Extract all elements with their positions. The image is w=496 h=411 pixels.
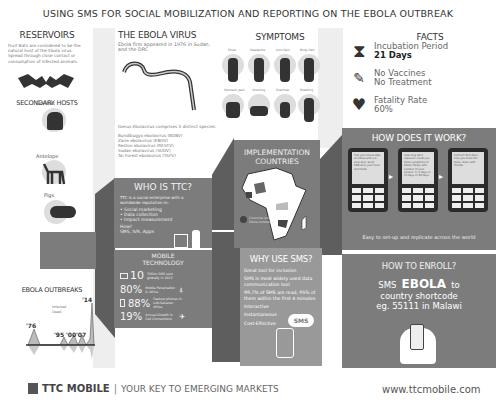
symptom-label: Body Pain — [300, 48, 315, 53]
why-item: Interactive — [244, 304, 322, 309]
connector-shape — [95, 178, 115, 338]
pig-icon — [44, 200, 68, 224]
envelope-icon — [120, 273, 128, 279]
footer-brand: TTC MOBILE | YOUR KEY TO EMERGING MARKET… — [28, 383, 279, 394]
how-section: HOW DOES IT WORK? Test your knowledge on… — [342, 128, 496, 250]
symptom-label: Diarrhea — [276, 88, 289, 93]
satellite-icon: ✈ — [179, 313, 185, 321]
kiosk-icon — [174, 234, 188, 248]
why-item: 99.7% of SMS are read, 95% of them withi… — [244, 290, 320, 301]
virus-intro: Ebola first appeared in 1976 in Sudan, a… — [118, 42, 218, 52]
year-76: '76 — [26, 322, 36, 329]
legend-dot — [240, 216, 247, 223]
brand-tagline: YOUR KEY TO EMERGING MARKETS — [121, 384, 279, 394]
symptom-label: Bleeding — [300, 88, 313, 93]
why-item: Great tool for inclusion — [244, 268, 320, 273]
phone-step-2: How long after exposure could you show s… — [398, 148, 438, 212]
phone-step-1: Test your knowledge on Ebola with a 4-st… — [348, 148, 388, 212]
map-legend: Countries with Ebola outbreaks — [249, 216, 277, 224]
gorilla-icon — [42, 108, 66, 132]
africa-map — [236, 164, 316, 244]
host-label: Gorillas — [36, 101, 55, 106]
syringe-icon: ✎ — [348, 69, 370, 87]
enroll-line2: country shortcode — [342, 291, 496, 301]
symptom-label: Stomach pain — [224, 88, 245, 93]
person-icon — [192, 230, 200, 248]
why-item: SMS is most widely used data communicati… — [244, 276, 320, 287]
mobile-section: MOBILETECHNOLOGY 10 Trillion SMS sent gl… — [114, 250, 212, 328]
heartbeat-icon: ♥ — [348, 96, 370, 114]
why-heading: WHY USE SMS? — [240, 254, 322, 264]
phone-step-3: Correct! Well done, now you know the fac… — [448, 148, 488, 212]
how-caption: Easy to set-up and replicate across the … — [342, 234, 496, 240]
fact-line2: 21 Days — [374, 51, 448, 60]
bat-icon — [16, 70, 76, 92]
facts-list: ⧗ Incubation Period 21 Days ✎ No Vaccine… — [348, 42, 496, 120]
virus-icon — [118, 56, 213, 116]
host-label: Pigs — [44, 193, 54, 198]
sms-bubble-icon: SMS — [288, 314, 314, 327]
year-07: '07 — [76, 331, 86, 338]
year-95: '95 — [54, 331, 64, 338]
enroll-instruction: SMS EBOLA to — [342, 277, 496, 291]
virus-heading: THE EBOLA VIRUS — [118, 30, 218, 40]
who-heading: WHO IS TTC? — [114, 182, 212, 192]
column-divider — [318, 28, 343, 148]
who-bullet: • Impact measurement — [120, 217, 212, 222]
how-heading: HOW DOES IT WORK? — [342, 133, 496, 143]
phone-icon — [120, 299, 125, 307]
brand-name: TTC MOBILE — [42, 383, 110, 394]
year-14: '14 — [82, 296, 92, 303]
host-label: Antelope — [36, 154, 58, 159]
mobile-stat: 10 Trillion SMS sent globally in 2013 — [120, 269, 212, 282]
phone-icon — [276, 328, 294, 358]
fact-line2: No Treatment — [374, 78, 432, 87]
implementation-section: IMPLEMENTATIONCOUNTRIES Countries with E… — [234, 140, 320, 248]
mobile-heading: MOBILETECHNOLOGY — [114, 253, 212, 266]
virus-section: THE EBOLA VIRUS Ebola first appeared in … — [118, 30, 218, 159]
mobile-stat: 19% Annual Growth in Cell Connections ✈ — [120, 311, 212, 322]
symptom-label: Vomiting — [252, 88, 265, 93]
enroll-heading: HOW TO ENROLL? — [342, 261, 496, 271]
hand-holding-phone-icon — [400, 328, 436, 364]
symptom-label: Fever — [228, 48, 236, 53]
mobile-stat: 88% Feature phones in sub-Saharan Africa — [120, 297, 212, 309]
year-00: '00 — [66, 331, 76, 338]
symptoms-grid: Fever Headache Joint Pain Body Pain Stom… — [220, 40, 320, 130]
page-title: USING SMS FOR SOCIAL MOBILIZATION AND RE… — [0, 8, 496, 19]
enroll-section: HOW TO ENROLL? SMS EBOLA to country shor… — [342, 254, 496, 368]
outbreaks-heading: EBOLA OUTBREAKS — [12, 286, 92, 294]
enroll-keyword: EBOLA — [402, 277, 446, 291]
arrow-icon: ▸ — [439, 172, 443, 181]
who-section: WHO IS TTC? TTC is a social enterprise w… — [114, 178, 212, 248]
website-link[interactable]: www.ttcmobile.com — [382, 384, 481, 395]
mobile-stat: 80% Mobile Penetration in Africa ⍋ — [120, 284, 212, 295]
connector-shape — [40, 232, 96, 269]
connector-shape — [320, 135, 342, 255]
antelope-icon — [42, 160, 66, 184]
reservoirs-section: RESERVOIRS Fruit Bats are considered to … — [2, 30, 92, 107]
symptom-label: Headache — [250, 48, 265, 53]
who-intro: TTC is a social enterprise with a worldw… — [120, 195, 190, 205]
reservoirs-text: Fruit Bats are considered to be the natu… — [8, 43, 88, 64]
hourglass-icon: ⧗ — [348, 42, 370, 60]
signal-tower-icon: ⍋ — [179, 286, 183, 294]
fact-line2: 60% — [374, 105, 427, 114]
virus-genus: Genus Ebolavirus comprises 5 distinct sp… — [118, 124, 218, 129]
species-item: Tai Forest ebolavirus (TAFV) — [118, 153, 218, 158]
ttc-logo-icon — [28, 383, 38, 394]
connector-shape — [212, 232, 240, 362]
symptom-label: Joint Pain — [276, 48, 290, 53]
arrow-icon: ▸ — [389, 172, 393, 181]
why-section: WHY USE SMS? Great tool for inclusion SM… — [240, 248, 322, 366]
reservoirs-heading: RESERVOIRS — [2, 30, 92, 40]
enroll-line3: eg. 55111 in Malawi — [342, 301, 496, 311]
